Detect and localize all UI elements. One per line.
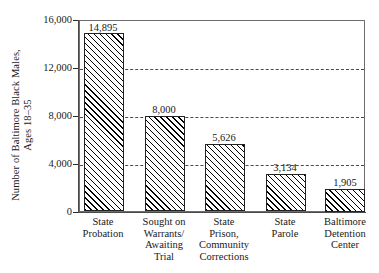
bar-state-prison-community-corrections[interactable] <box>205 144 245 211</box>
bar-value-baltimore-detention-center: 1,905 <box>333 177 357 188</box>
x-label-line: Warrants/ <box>143 228 186 240</box>
y-tick-label-8000: 8,000 <box>26 111 72 122</box>
x-label-line: Prison, <box>199 228 249 240</box>
x-label-line: Community <box>199 239 249 251</box>
bar-baltimore-detention-center-2[interactable] <box>325 189 365 212</box>
y-axis-line <box>78 20 79 213</box>
plot-area <box>79 20 365 212</box>
x-label-line: Center <box>324 239 366 251</box>
y-tick-label-4000: 4,000 <box>26 159 72 170</box>
x-label-state-parole: State Parole <box>272 216 299 239</box>
x-label-sought-on-warrants: Sought on Warrants/ Awaiting Trial <box>143 216 186 262</box>
x-label-line: State <box>199 216 249 228</box>
bar-value-state-probation: 14,895 <box>89 22 118 33</box>
x-label-state-probation: State Probation <box>83 216 124 239</box>
bar-state-probation[interactable] <box>84 33 124 211</box>
bar-value-state-prison: 5,626 <box>212 132 236 143</box>
x-label-line: Trial <box>143 251 186 263</box>
x-axis-line <box>78 212 366 213</box>
y-axis-title-line-1: Number of Baltimore Black Males, <box>10 49 22 201</box>
x-axis-tick-labels: State Probation Sought on Warrants/ Awai… <box>0 216 379 273</box>
x-label-state-prison: State Prison, Community Corrections <box>199 216 249 262</box>
bar-sought-on-warrants[interactable] <box>145 116 185 212</box>
y-tick-label-12000: 12,000 <box>26 63 72 74</box>
x-label-line: Baltimore <box>324 216 366 228</box>
x-label-line: Sought on <box>143 216 186 228</box>
x-label-line: Awaiting <box>143 239 186 251</box>
x-label-line: Parole <box>272 228 299 240</box>
x-label-line: Corrections <box>199 251 249 263</box>
x-label-line: Probation <box>83 228 124 240</box>
y-tick-label-16000: 16,000 <box>26 15 72 26</box>
x-label-line: State <box>272 216 299 228</box>
x-label-line: Detention <box>324 228 366 240</box>
bar-state-parole[interactable] <box>266 174 306 211</box>
bar-value-state-parole: 3,134 <box>273 162 297 173</box>
x-label-line: State <box>83 216 124 228</box>
bar-value-sought-on-warrants: 8,000 <box>152 104 176 115</box>
x-label-baltimore-detention-center: Baltimore Detention Center <box>324 216 366 251</box>
bar-chart: Number of Baltimore Black Males, Ages 18… <box>0 0 379 273</box>
